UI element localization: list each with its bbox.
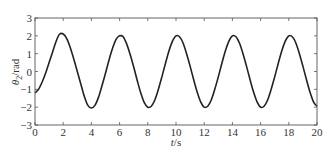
- x-tick-label: 6: [117, 126, 123, 138]
- x-tick-label: 18: [283, 126, 295, 138]
- x-tick-label: 8: [145, 126, 151, 138]
- series-line-theta2: [35, 33, 317, 108]
- y-tick-label: 0: [27, 66, 33, 78]
- y-axis-label: θ2/rad: [9, 58, 24, 85]
- data-series: [35, 33, 317, 108]
- x-tick-label: 20: [312, 126, 324, 138]
- line-chart: 02468101214161820−3−2−10123 t/s θ2/rad: [0, 0, 331, 158]
- y-tick-label: −2: [20, 101, 32, 113]
- x-tick-label: 16: [255, 126, 267, 138]
- y-tick-label: 3: [27, 12, 33, 24]
- y-tick-label: −3: [20, 119, 32, 131]
- x-tick-label: 14: [227, 126, 239, 138]
- y-tick-label: −1: [20, 83, 32, 95]
- x-tick-label: 12: [199, 126, 210, 138]
- x-tick-label: 2: [60, 126, 66, 138]
- x-tick-label: 0: [32, 126, 38, 138]
- x-axis-label: t/s: [171, 136, 181, 148]
- axis-ticks: 02468101214161820−3−2−10123: [20, 12, 323, 138]
- y-tick-label: 2: [27, 30, 33, 42]
- x-tick-label: 4: [89, 126, 95, 138]
- y-tick-label: 1: [27, 48, 33, 60]
